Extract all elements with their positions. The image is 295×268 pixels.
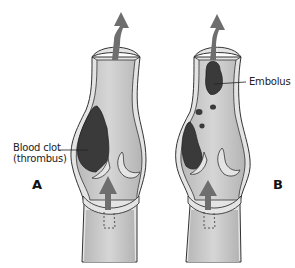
panel-b-vein (176, 14, 251, 262)
vein-diagram (0, 0, 295, 268)
thrombus-label: Blood clot (thrombus) (13, 142, 67, 164)
vein-b-lower-lumen (188, 210, 239, 262)
thrombus-label-line1: Blood clot (13, 142, 67, 153)
vein-a-lower-lumen (84, 210, 135, 262)
clot-fragment (210, 104, 216, 109)
clot-fragment (196, 109, 203, 115)
embolus (206, 61, 223, 94)
thrombus-label-line2: (thrombus) (13, 153, 67, 164)
panel-a-vein (58, 12, 146, 262)
panel-letter-a: A (32, 177, 42, 192)
vein-b-top-cap (194, 47, 241, 57)
panel-letter-b: B (273, 177, 283, 192)
embolus-label: Embolus (249, 76, 290, 87)
clot-fragment (199, 124, 204, 129)
